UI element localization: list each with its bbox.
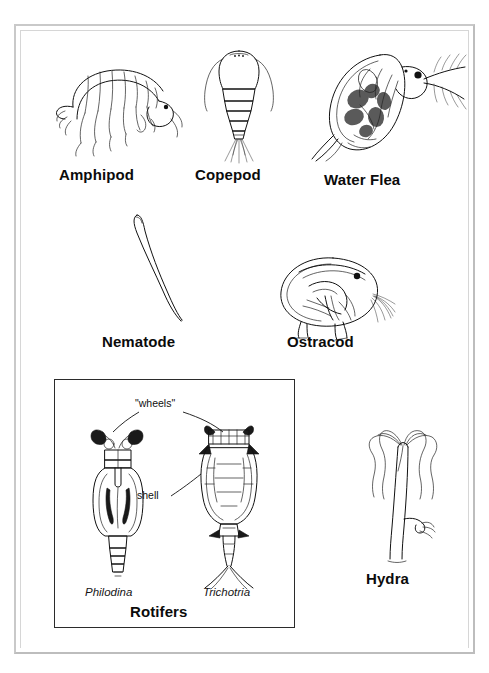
rotifers-box: "wheels" shell	[54, 379, 295, 628]
label-water-flea: Water Flea	[324, 172, 400, 187]
species-name-philodina: Philodina	[85, 587, 132, 599]
amphipod-drawing	[55, 49, 183, 159]
plate-canvas: Amphipod	[21, 31, 468, 648]
water-flea-drawing	[308, 39, 468, 179]
trichotria-drawing	[191, 414, 271, 590]
illustration-plate: Amphipod	[0, 0, 489, 673]
copepod-drawing	[199, 45, 279, 165]
label-ostracod: Ostracod	[287, 334, 354, 349]
nematode-drawing	[121, 207, 191, 327]
label-amphipod: Amphipod	[59, 167, 134, 182]
species-name-trichotria: Trichotria	[203, 587, 250, 599]
hydra-drawing	[360, 423, 450, 573]
label-nematode: Nematode	[102, 334, 175, 349]
philodina-drawing	[85, 422, 155, 582]
label-hydra: Hydra	[366, 571, 409, 586]
label-rotifers: Rotifers	[130, 604, 187, 619]
annotation-wheels: "wheels"	[135, 398, 175, 409]
label-copepod: Copepod	[195, 167, 261, 182]
